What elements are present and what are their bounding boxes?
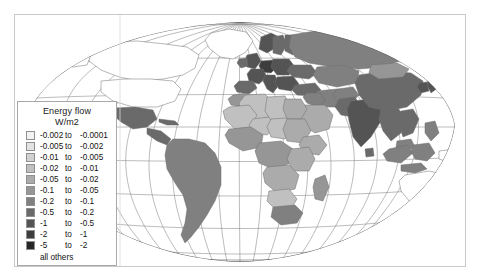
legend-swatch-9 [26, 230, 35, 239]
legend-lo-8: -1 [40, 219, 65, 229]
legend-row[interactable]: -0.1 to -0.05 [26, 185, 116, 196]
legend-lo-3: -0.02 [40, 164, 65, 174]
legend-swatch-4 [26, 175, 35, 184]
region-sri-lanka [365, 148, 374, 157]
legend-swatch-3 [26, 164, 35, 173]
legend-lo-6: -0.2 [40, 197, 65, 207]
figure-frame: Energy flow W/m2 -0.002 to -0.0001 -0.00… [14, 14, 466, 267]
legend-swatch-1 [26, 142, 35, 151]
legend-label-8: -1 to -0.5 [40, 219, 94, 229]
legend-hi-0: -0.0001 [80, 131, 108, 141]
legend-to-8: to [65, 219, 80, 229]
legend-to-7: to [65, 208, 80, 218]
legend-hi-5: -0.05 [80, 186, 99, 196]
legend-hi-7: -0.2 [80, 208, 94, 218]
legend-label-5: -0.1 to -0.05 [40, 186, 99, 196]
legend-label-10: -5 to -2 [40, 241, 87, 251]
legend-to-9: to [65, 230, 80, 240]
legend-row[interactable]: -2 to -1 [26, 229, 116, 240]
legend-units: W/m2 [18, 117, 116, 128]
legend-row[interactable]: -0.01 to -0.005 [26, 152, 116, 163]
legend-to-5: to [65, 186, 80, 196]
legend-lo-5: -0.1 [40, 186, 65, 196]
legend-to-4: to [65, 175, 80, 185]
legend-label-all-others: all others [40, 253, 73, 263]
legend-label-2: -0.01 to -0.005 [40, 153, 103, 163]
legend-lo-7: -0.5 [40, 208, 65, 218]
legend-hi-8: -0.5 [80, 219, 94, 229]
legend-hi-9: -1 [80, 230, 87, 240]
legend-row[interactable]: -1 to -0.5 [26, 218, 116, 229]
legend-label-1: -0.005 to -0.002 [40, 142, 103, 152]
legend-row[interactable]: -0.2 to -0.1 [26, 196, 116, 207]
legend-swatch-0 [26, 131, 35, 140]
legend-lo-0: -0.002 [40, 131, 65, 141]
legend-hi-2: -0.005 [80, 153, 103, 163]
legend-to-1: to [65, 142, 80, 152]
legend-swatch-6 [26, 197, 35, 206]
legend-swatch-8 [26, 219, 35, 228]
legend-to-2: to [65, 153, 80, 163]
legend-to-10: to [65, 241, 80, 251]
legend-to-6: to [65, 197, 80, 207]
legend-row[interactable]: -0.005 to -0.002 [26, 141, 116, 152]
legend-lo-1: -0.005 [40, 142, 65, 152]
legend-label-7: -0.5 to -0.2 [40, 208, 94, 218]
legend-to-3: to [65, 164, 80, 174]
legend-row[interactable]: -0.02 to -0.01 [26, 163, 116, 174]
legend-swatch-7 [26, 208, 35, 217]
legend-hi-3: -0.01 [80, 164, 99, 174]
legend-row[interactable]: -5 to -2 [26, 240, 116, 251]
legend-label-4: -0.05 to -0.02 [40, 175, 99, 185]
legend-class-list: -0.002 to -0.0001 -0.005 to -0.002 -0.01… [18, 130, 116, 263]
legend-lo-4: -0.05 [40, 175, 65, 185]
legend-swatch-2 [26, 153, 35, 162]
legend-title: Energy flow [18, 102, 116, 117]
map-legend[interactable]: Energy flow W/m2 -0.002 to -0.0001 -0.00… [17, 101, 117, 266]
legend-label-6: -0.2 to -0.1 [40, 197, 94, 207]
legend-row[interactable]: -0.5 to -0.2 [26, 207, 116, 218]
legend-to-0: to [65, 131, 80, 141]
legend-hi-4: -0.02 [80, 175, 99, 185]
legend-row[interactable]: -0.05 to -0.02 [26, 174, 116, 185]
legend-swatch-10 [26, 241, 35, 250]
legend-row-all-others[interactable]: all others [26, 252, 116, 263]
legend-label-0: -0.002 to -0.0001 [40, 131, 108, 141]
legend-label-3: -0.02 to -0.01 [40, 164, 99, 174]
legend-lo-10: -5 [40, 241, 65, 251]
legend-row[interactable]: -0.002 to -0.0001 [26, 130, 116, 141]
legend-lo-9: -2 [40, 230, 65, 240]
legend-swatch-5 [26, 186, 35, 195]
legend-hi-1: -0.002 [80, 142, 103, 152]
legend-label-9: -2 to -1 [40, 230, 87, 240]
legend-lo-2: -0.01 [40, 153, 65, 163]
legend-hi-6: -0.1 [80, 197, 94, 207]
legend-hi-10: -2 [80, 241, 87, 251]
